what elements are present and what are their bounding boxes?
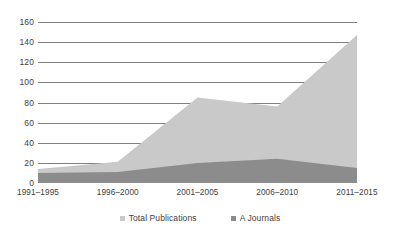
square-marker-icon xyxy=(120,216,125,221)
area-series-svg xyxy=(38,22,357,183)
x-tick-label: 1991–1995 xyxy=(17,188,59,197)
legend-item-total-publications[interactable]: Total Publications xyxy=(120,213,197,223)
y-tick-label: 40 xyxy=(4,138,34,148)
area-chart: 160 140 120 100 80 60 40 20 0 1991–1995 … xyxy=(0,0,400,239)
chart-legend: Total Publications A Journals xyxy=(0,213,400,223)
area-total-publications xyxy=(38,35,357,183)
y-tick-label: 20 xyxy=(4,158,34,168)
y-tick-label: 100 xyxy=(4,77,34,87)
y-tick-label: 60 xyxy=(4,118,34,128)
square-marker-icon xyxy=(231,216,236,221)
legend-label: A Journals xyxy=(240,213,281,223)
x-tick-label: 2001–2005 xyxy=(177,188,219,197)
y-tick-label: 140 xyxy=(4,37,34,47)
y-tick-label: 160 xyxy=(4,17,34,27)
x-tick-label: 2011–2015 xyxy=(336,188,377,197)
y-tick-label: 0 xyxy=(4,178,34,188)
legend-item-a-journals[interactable]: A Journals xyxy=(231,213,281,223)
plot-area xyxy=(38,22,357,183)
y-tick-label: 120 xyxy=(4,57,34,67)
y-tick-label: 80 xyxy=(4,98,34,108)
x-tick-label: 1996–2000 xyxy=(97,188,139,197)
x-tick-label: 2006–2010 xyxy=(256,188,298,197)
legend-label: Total Publications xyxy=(129,213,197,223)
